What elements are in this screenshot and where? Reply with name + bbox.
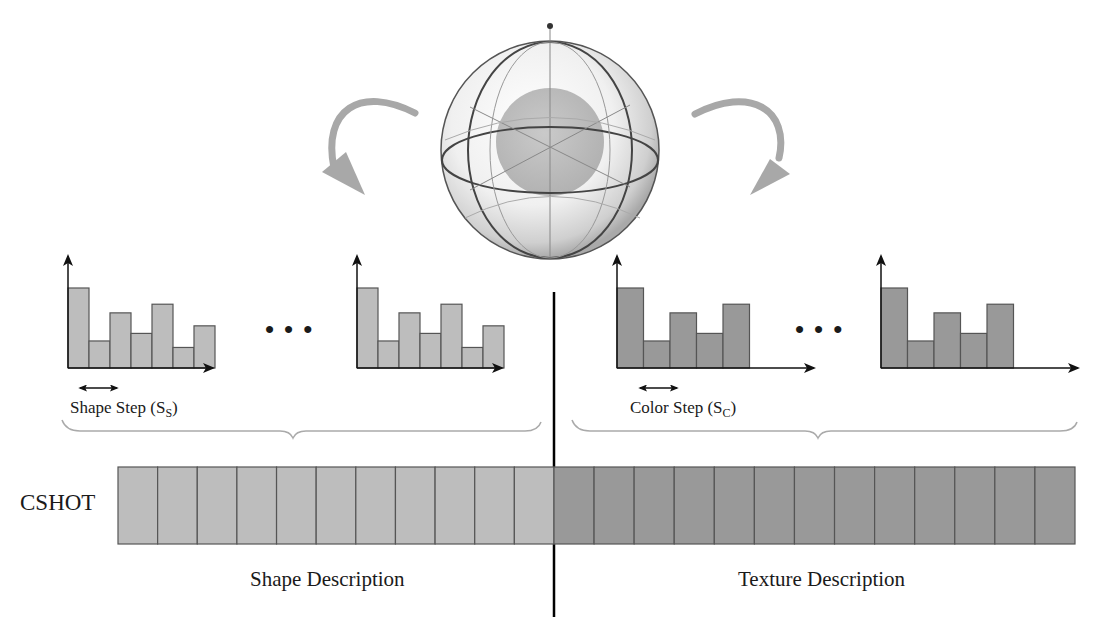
texture-cell	[714, 467, 754, 544]
texture-cell	[995, 467, 1035, 544]
histogram-bar	[441, 304, 462, 368]
texture-cell	[754, 467, 794, 544]
shape-cell	[356, 467, 396, 544]
histogram-bar	[483, 326, 504, 368]
histogram-bar	[908, 341, 935, 368]
texture-cell	[794, 467, 834, 544]
cshot-label: CSHOT	[20, 490, 95, 516]
shape-cell	[277, 467, 317, 544]
histogram-bar	[194, 326, 215, 368]
shape-cell	[395, 467, 435, 544]
histogram-bar	[399, 313, 420, 368]
histogram-bar	[697, 333, 724, 368]
histogram-bar	[420, 333, 441, 368]
shape-histogram-first	[68, 256, 215, 368]
shape-cell	[118, 467, 158, 544]
shape-cell	[475, 467, 515, 544]
histogram-bar	[934, 313, 961, 368]
texture-cell	[955, 467, 995, 544]
color-histogram-last	[881, 256, 1078, 368]
histogram-bar	[357, 288, 378, 368]
cshot-descriptor-bar	[118, 467, 1075, 544]
texture-cell	[594, 467, 634, 544]
color-step-text: Color Step (S	[630, 398, 723, 417]
histogram-bar	[173, 347, 194, 368]
color-ellipsis: •••	[795, 315, 852, 345]
histogram-bar	[723, 304, 750, 368]
paren: )	[731, 398, 737, 417]
color-histogram-first	[617, 256, 814, 368]
texture-cell	[674, 467, 714, 544]
histogram-bar	[68, 288, 89, 368]
color-step-label: Color Step (SC)	[630, 398, 736, 421]
histogram-bar	[462, 347, 483, 368]
histogram-bar	[89, 341, 110, 368]
texture-cell	[554, 467, 594, 544]
shape-ellipsis: •••	[265, 315, 322, 345]
histogram-bar	[881, 288, 908, 368]
shape-brace	[62, 420, 541, 438]
texture-cell	[915, 467, 955, 544]
shape-cell	[237, 467, 277, 544]
shape-description-label: Shape Description	[250, 567, 405, 592]
shape-step-text: Shape Step (S	[70, 398, 165, 417]
texture-cell	[875, 467, 915, 544]
histogram-bar	[987, 304, 1014, 368]
shape-histogram-last	[357, 256, 504, 368]
sphere-icon	[441, 23, 659, 259]
shape-cell	[197, 467, 237, 544]
texture-description-label: Texture Description	[738, 567, 905, 592]
shape-cell	[316, 467, 356, 544]
shape-step-label: Shape Step (SS)	[70, 398, 178, 421]
histogram-bar	[152, 304, 173, 368]
histogram-bar	[644, 341, 671, 368]
shape-cell	[435, 467, 475, 544]
histogram-bar	[961, 333, 988, 368]
color-brace	[572, 420, 1077, 438]
shape-cell	[514, 467, 554, 544]
left-curved-arrow-icon	[322, 102, 415, 195]
texture-cell	[1035, 467, 1075, 544]
histogram-bar	[378, 341, 399, 368]
cshot-diagram	[0, 0, 1097, 641]
color-step-subscript: C	[723, 406, 731, 420]
histogram-bar	[670, 313, 697, 368]
texture-cell	[634, 467, 674, 544]
shape-cell	[158, 467, 198, 544]
histogram-bar	[617, 288, 644, 368]
histogram-bar	[131, 333, 152, 368]
texture-cell	[835, 467, 875, 544]
right-curved-arrow-icon	[695, 102, 790, 195]
paren: )	[172, 398, 178, 417]
histogram-bar	[110, 313, 131, 368]
